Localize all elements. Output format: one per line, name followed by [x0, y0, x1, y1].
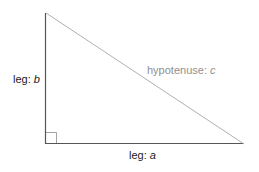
right-triangle-diagram: leg: b hypotenuse: c leg: a: [0, 0, 259, 172]
leg-a-label: leg: a: [129, 149, 156, 161]
hypotenuse-line: [46, 13, 244, 144]
leg-b-label: leg: b: [13, 73, 40, 85]
hypotenuse-label: hypotenuse: c: [147, 64, 216, 76]
right-angle-marker: [46, 133, 57, 144]
